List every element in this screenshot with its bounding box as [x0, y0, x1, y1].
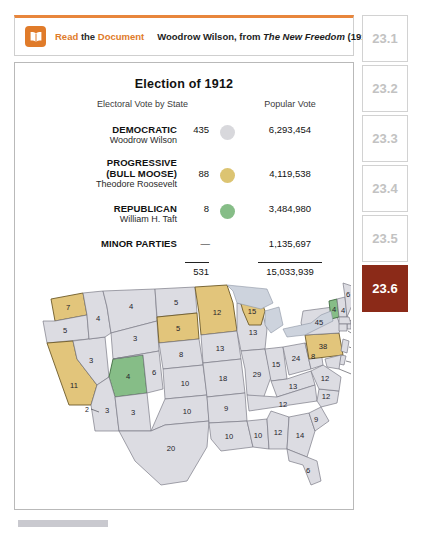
totals-rule-popular: [258, 262, 322, 263]
legend-swatch-progressive: [220, 168, 235, 183]
party-cell-progressive: PROGRESSIVE (BULL MOOSE) Theodore Roosev…: [41, 157, 177, 190]
state-ct: [339, 324, 347, 331]
electoral-map: 7 5 11 3 4 4 4 3 6 3 3 5 5 8 10 10 20 12…: [21, 281, 351, 503]
state-label-co: 6: [152, 368, 156, 377]
state-label-ga: 14: [296, 431, 304, 440]
state-label-tn: 12: [279, 400, 287, 409]
state-label-va: 12: [321, 374, 329, 383]
state-label-ny: 45: [315, 318, 323, 327]
total-popular: 15,033,939: [240, 266, 340, 277]
citation-author: Woodrow Wilson, from: [157, 31, 263, 42]
state-label-mt: 4: [129, 302, 133, 311]
state-label-nv: 3: [89, 356, 93, 365]
popular-value: 4,119,538: [240, 168, 340, 179]
state-label-ca: 11: [70, 381, 78, 390]
election-figure-card: Election of 1912 Electoral Vote by State…: [14, 62, 354, 510]
electoral-value-dash: —: [183, 238, 209, 249]
state-label-or: 5: [63, 326, 67, 335]
figure-title: Election of 1912: [15, 77, 353, 91]
citation-title: The New Freedom: [263, 31, 345, 42]
totals-row: 531 15,033,939: [15, 262, 355, 278]
tab-23-3[interactable]: 23.3: [362, 115, 408, 162]
state-label-ne: 8: [179, 350, 183, 359]
column-header-popular: Popular Vote: [240, 99, 340, 109]
tab-23-1[interactable]: 23.1: [362, 15, 408, 62]
state-label-mi: 15: [248, 307, 256, 316]
popular-value: 3,484,980: [240, 203, 340, 214]
party-cell-republican: REPUBLICAN William H. Taft: [41, 203, 177, 225]
state-label-il: 29: [253, 370, 261, 379]
state-ma: [339, 317, 351, 324]
state-label-nm: 3: [131, 408, 135, 417]
electoral-value: 435: [183, 124, 209, 135]
state-label-in: 15: [272, 360, 280, 369]
electoral-value: 88: [183, 168, 209, 179]
read-the-document-banner[interactable]: Read the Document Woodrow Wilson, from T…: [14, 15, 354, 56]
tab-23-5[interactable]: 23.5: [362, 215, 408, 262]
state-label-mn: 12: [213, 308, 221, 317]
state-label-al: 12: [274, 428, 282, 437]
state-label-ia: 13: [216, 344, 224, 353]
table-header-row: Electoral Vote by State Popular Vote: [15, 99, 355, 117]
total-electoral: 531: [183, 266, 209, 277]
open-book-icon: [25, 26, 46, 47]
state-label-fl: 6: [306, 466, 310, 475]
totals-rule-electoral: [185, 262, 209, 263]
bottom-placeholder-bar: [18, 520, 108, 527]
state-label-la: 10: [225, 432, 233, 441]
table-row: DEMOCRATIC Woodrow Wilson 435 6,293,454: [15, 124, 355, 150]
state-label-oh: 24: [292, 354, 300, 363]
legend-swatch-democratic: [220, 125, 235, 140]
state-label-wa: 7: [66, 303, 70, 312]
state-label-az: 3: [105, 406, 109, 415]
state-label-ok: 10: [183, 407, 191, 416]
state-label-id: 4: [96, 314, 100, 323]
popular-value: 6,293,454: [240, 124, 340, 135]
map-label-small: 2: [85, 406, 89, 413]
legend-swatch-republican: [220, 204, 235, 219]
party-cell-minor: MINOR PARTIES: [41, 238, 177, 249]
banner-document-word: Document: [98, 31, 144, 42]
chapter-tab-rail: 23.1 23.2 23.3 23.4 23.5 23.6: [362, 15, 410, 315]
party-name: DEMOCRATIC: [41, 124, 177, 135]
banner-label: Read the Document: [55, 31, 144, 42]
state-label-nh: 4: [341, 306, 345, 315]
party-name-line2: (BULL MOOSE): [41, 168, 177, 179]
popular-value: 1,135,697: [240, 238, 340, 249]
state-label-nd: 5: [174, 298, 178, 307]
table-row: MINOR PARTIES — 1,135,697: [15, 238, 355, 256]
tab-23-6[interactable]: 23.6: [362, 265, 408, 312]
table-row: PROGRESSIVE (BULL MOOSE) Theodore Roosev…: [15, 157, 355, 193]
tab-23-4[interactable]: 23.4: [362, 165, 408, 212]
state-ri: [347, 324, 351, 329]
tab-23-2[interactable]: 23.2: [362, 65, 408, 112]
party-name: MINOR PARTIES: [41, 238, 177, 249]
column-header-electoral: Electoral Vote by State: [65, 99, 220, 109]
state-label-wy: 3: [133, 334, 137, 343]
state-label-me: 6: [346, 290, 350, 299]
banner-read-word: Read: [55, 31, 78, 42]
candidate-name: Theodore Roosevelt: [41, 179, 177, 190]
leader-line-ct: [348, 331, 351, 338]
state-label-nc: 12: [322, 392, 330, 401]
state-label-ut: 4: [126, 372, 130, 381]
state-label-mo: 18: [219, 374, 227, 383]
lake-michigan-huron: [265, 307, 283, 333]
table-row: REPUBLICAN William H. Taft 8 3,484,980: [15, 203, 355, 229]
state-label-ks: 10: [181, 379, 189, 388]
state-label-ms: 10: [254, 431, 262, 440]
candidate-name: William H. Taft: [41, 214, 177, 225]
state-label-sc: 9: [314, 415, 318, 424]
leader-line-nj: [349, 347, 351, 351]
electoral-value: 8: [183, 203, 209, 214]
leader-line-de: [346, 361, 351, 365]
party-name: REPUBLICAN: [41, 203, 177, 214]
state-nj: [341, 339, 349, 353]
state-label-wi: 13: [249, 328, 257, 337]
vote-summary-table: Electoral Vote by State Popular Vote DEM…: [15, 99, 355, 278]
candidate-name: Woodrow Wilson: [41, 135, 177, 146]
banner-citation: Woodrow Wilson, from The New Freedom (19…: [157, 31, 375, 42]
state-label-ar: 9: [224, 404, 228, 413]
state-label-sd: 5: [176, 324, 180, 333]
party-name: PROGRESSIVE: [41, 157, 177, 168]
